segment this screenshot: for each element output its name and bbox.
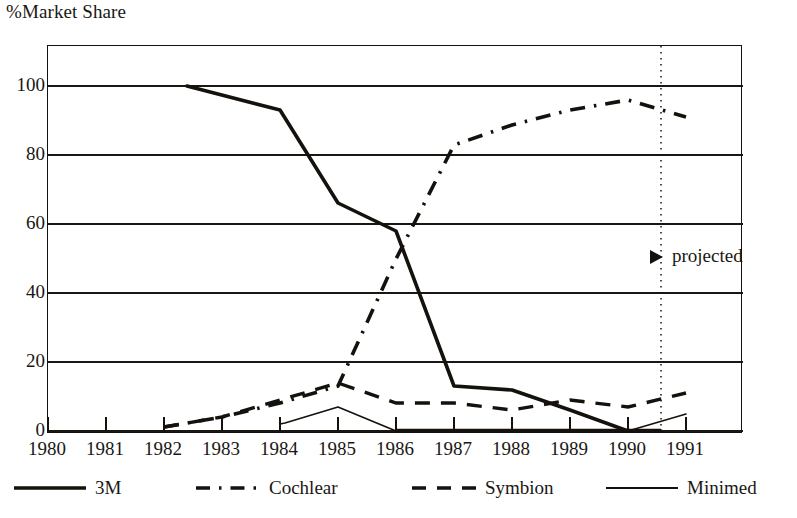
projected-arrow-icon <box>650 250 663 264</box>
x-tick-label-1989: 1989 <box>539 438 599 460</box>
x-tick-label-1982: 1982 <box>133 438 193 460</box>
legend-label-cochlear: Cochlear <box>269 478 338 497</box>
y-tick-label-60: 60 <box>26 223 45 245</box>
legend-label-3m: 3M <box>95 478 121 497</box>
legend-swatch-dashed-icon <box>412 481 476 495</box>
y-tick-label-100: 100 <box>17 85 46 107</box>
x-tick-label-1986: 1986 <box>365 438 425 460</box>
series-line-symbion <box>164 383 686 427</box>
x-tick-label-1984: 1984 <box>249 438 309 460</box>
x-tick-label-1981: 1981 <box>75 438 135 460</box>
x-tick-label-1983: 1983 <box>191 438 251 460</box>
legend-label-minimed: Minimed <box>687 478 757 497</box>
legend-label-symbion: Symbion <box>485 478 554 497</box>
legend-swatch-solid-icon <box>14 481 86 495</box>
x-tick-label-1990: 1990 <box>597 438 657 460</box>
series-line-minimed <box>280 407 686 431</box>
y-tick-label-20: 20 <box>26 361 45 383</box>
chart-y-axis-title: %Market Share <box>6 1 126 23</box>
legend-item-symbion: Symbion <box>412 478 554 497</box>
y-tick-label-40: 40 <box>26 292 45 314</box>
legend-swatch-dash-dot-icon <box>196 481 260 495</box>
projected-label: projected <box>672 245 743 267</box>
chart-legend: 3M Cochlear Symbion <box>0 478 797 514</box>
legend-swatch-thin-solid-icon <box>606 481 678 495</box>
market-share-line-chart: %Market Share 100 80 60 40 20 0 <box>0 0 797 518</box>
legend-item-minimed: Minimed <box>606 478 757 497</box>
x-tick-label-1980: 1980 <box>17 438 77 460</box>
legend-item-cochlear: Cochlear <box>196 478 338 497</box>
series-line-3m <box>187 86 661 431</box>
plot-area <box>47 45 742 433</box>
x-tick-label-1991: 1991 <box>655 438 715 460</box>
legend-item-3m: 3M <box>14 478 121 497</box>
x-tick-label-1985: 1985 <box>307 438 367 460</box>
gridlines <box>48 86 743 431</box>
y-tick-label-80: 80 <box>26 154 45 176</box>
series-line-cochlear <box>164 100 686 427</box>
plot-canvas <box>48 46 743 434</box>
x-tick-label-1987: 1987 <box>423 438 483 460</box>
x-tick-label-1988: 1988 <box>481 438 541 460</box>
